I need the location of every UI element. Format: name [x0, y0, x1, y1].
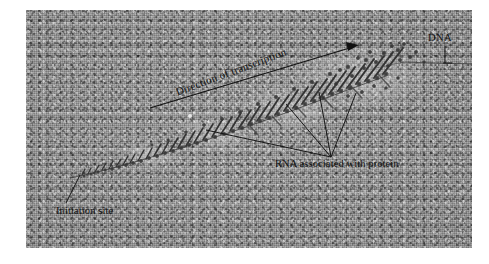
label-dna: DNA [428, 32, 452, 43]
label-initiation-site: Initiation site [56, 205, 113, 216]
label-rna-associated-with-protein: RNA associated with protein [275, 158, 399, 169]
micrograph-figure: DNA Direction of transcription RNA assoc… [0, 0, 489, 264]
